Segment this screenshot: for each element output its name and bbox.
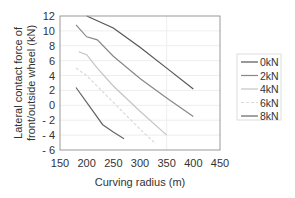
y-tick-label: - 4 — [42, 129, 55, 141]
legend: 0kN2kN4kN6kN8kN — [237, 54, 281, 122]
y-tick-label: 0 — [49, 99, 55, 111]
y-tick-label: - 6 — [42, 144, 55, 156]
grid-lines — [60, 16, 220, 150]
x-tick-label: 300 — [131, 157, 149, 169]
y-axis-ticks: - 6- 4- 2024681012 — [42, 10, 55, 156]
line-chart: - 6- 4- 2024681012 150200250300350400450… — [0, 0, 295, 198]
y-tick-label: 12 — [43, 10, 55, 22]
y-tick-label: 4 — [49, 70, 55, 82]
series-line-2kN — [76, 25, 193, 117]
y-axis-label-line1: Lateral contact force of — [12, 26, 24, 139]
x-axis-ticks: 150200250300350400450 — [51, 157, 229, 169]
x-tick-label: 450 — [211, 157, 229, 169]
x-tick-label: 400 — [184, 157, 202, 169]
legend-label: 6kN — [260, 97, 279, 109]
legend-label: 4kN — [260, 83, 279, 95]
data-series — [76, 16, 193, 144]
legend-label: 2kN — [260, 70, 279, 82]
y-tick-label: 6 — [49, 55, 55, 67]
x-tick-label: 350 — [157, 157, 175, 169]
y-axis-label-line2: front/outside wheel (kN) — [25, 25, 37, 141]
plot-area-border — [60, 16, 220, 150]
series-line-6kN — [76, 68, 156, 144]
x-axis-label: Curving radius (m) — [95, 176, 185, 188]
x-tick-label: 200 — [77, 157, 95, 169]
series-line-8kN — [76, 88, 124, 139]
x-tick-label: 250 — [104, 157, 122, 169]
y-tick-label: 8 — [49, 40, 55, 52]
legend-label: 0kN — [260, 56, 279, 68]
y-tick-label: 2 — [49, 84, 55, 96]
y-tick-label: 10 — [43, 25, 55, 37]
y-tick-label: - 2 — [42, 114, 55, 126]
legend-label: 8kN — [260, 110, 279, 122]
x-tick-label: 150 — [51, 157, 69, 169]
